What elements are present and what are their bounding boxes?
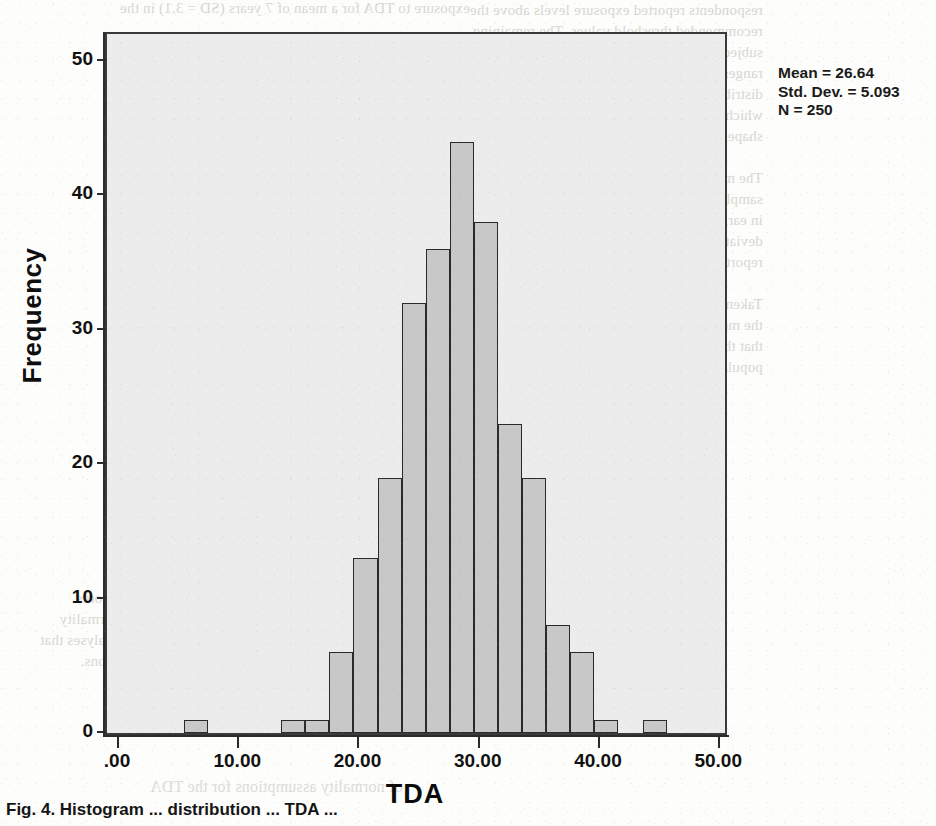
x-axis-tick-label: 40.00 (574, 750, 622, 772)
histogram-bar (643, 720, 667, 733)
histogram-figure: 01020304050 Frequency .0010.0020.0030.00… (0, 0, 770, 790)
y-axis-tick (97, 328, 106, 330)
y-axis-tick (97, 597, 106, 599)
x-axis-tick-label: 50.00 (694, 750, 742, 772)
histogram-bar (402, 303, 426, 733)
x-axis-tick-label: 30.00 (454, 750, 502, 772)
histogram-bar (546, 625, 570, 733)
figure-caption: Fig. 4. Histogram ... distribution ... T… (6, 800, 936, 824)
stat-mean: Mean = 26.64 (778, 64, 900, 83)
y-axis-tick-label: 0 (82, 720, 93, 742)
x-axis-tick (237, 737, 239, 748)
stat-n: N = 250 (778, 101, 900, 120)
histogram-bar (305, 720, 329, 733)
x-axis-tick (478, 737, 480, 748)
histogram-bar (378, 478, 402, 733)
histogram-bar (522, 478, 546, 733)
x-axis-tick (117, 737, 119, 748)
y-axis-tick (97, 193, 106, 195)
x-axis-tick (598, 737, 600, 748)
y-axis-tick-label: 50 (72, 48, 93, 70)
histogram-bar (450, 142, 474, 733)
histogram-bar (498, 424, 522, 733)
y-axis-title: Frequency (17, 116, 48, 516)
histogram-bars (107, 34, 725, 733)
x-axis-tick-label: 10.00 (213, 750, 261, 772)
y-axis-tick-label: 30 (72, 317, 93, 339)
x-axis-tick (718, 737, 720, 748)
stat-std-dev: Std. Dev. = 5.093 (778, 83, 900, 102)
y-axis-tick-label: 20 (72, 451, 93, 473)
x-axis-tick-label: .00 (104, 750, 130, 772)
histogram-bar (184, 720, 208, 733)
y-axis-tick-label: 40 (72, 182, 93, 204)
y-axis-tick (97, 59, 106, 61)
histogram-bar (353, 558, 377, 733)
histogram-bar (570, 652, 594, 733)
x-axis-tick (357, 737, 359, 748)
y-axis: 01020304050 (96, 26, 106, 741)
y-axis-tick (97, 731, 106, 733)
y-axis-tick (97, 462, 106, 464)
x-axis-line (103, 735, 729, 737)
histogram-bar (281, 720, 305, 733)
histogram-bar (426, 249, 450, 733)
y-axis-tick-label: 10 (72, 586, 93, 608)
statistics-annotation: Mean = 26.64 Std. Dev. = 5.093 N = 250 (778, 64, 900, 120)
scanned-page: exposure to TDA for a mean of 7 years (S… (0, 0, 936, 826)
x-axis-tick-label: 20.00 (334, 750, 382, 772)
histogram-bar (474, 222, 498, 733)
histogram-bar (329, 652, 353, 733)
plot-area (105, 32, 727, 735)
histogram-bar (594, 720, 618, 733)
